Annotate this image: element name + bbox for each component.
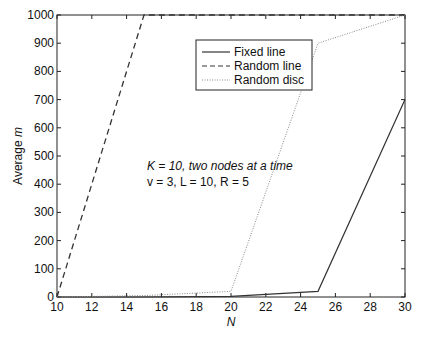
y-tick-label: 900 [34, 36, 54, 50]
x-tick-label: 14 [120, 300, 134, 314]
x-tick-label: 28 [364, 300, 378, 314]
legend: Fixed line Random line Random disc [196, 40, 312, 90]
x-tick-label: 30 [398, 300, 412, 314]
y-tick-label: 1000 [27, 8, 54, 22]
y-tick-label: 0 [47, 290, 54, 304]
x-tick-label: 26 [329, 300, 343, 314]
annotation-line-1: K = 10, two nodes at a time [147, 159, 293, 173]
y-tick-label: 600 [34, 121, 54, 135]
y-tick-label: 400 [34, 177, 54, 191]
legend-random-disc: Random disc [234, 73, 304, 87]
x-tick-label: 18 [190, 300, 204, 314]
x-tick-label: 12 [85, 300, 99, 314]
y-tick-label: 700 [34, 93, 54, 107]
x-tick-label: 22 [259, 300, 273, 314]
legend-fixed-line: Fixed line [234, 45, 286, 59]
y-tick-label: 100 [34, 262, 54, 276]
y-tick-label: 500 [34, 149, 54, 163]
x-axis-label: N [227, 315, 236, 329]
x-tick-label: 24 [294, 300, 308, 314]
line-chart: 1012141618202224262830010020030040050060… [0, 0, 421, 342]
y-tick-label: 300 [34, 205, 54, 219]
legend-random-line: Random line [234, 59, 302, 73]
y-tick-label: 800 [34, 64, 54, 78]
annotation-line-2: v = 3, L = 10, R = 5 [147, 175, 249, 189]
x-tick-label: 20 [224, 300, 238, 314]
x-tick-label: 16 [155, 300, 169, 314]
y-tick-label: 200 [34, 234, 54, 248]
y-axis-label: Average m [11, 127, 25, 185]
